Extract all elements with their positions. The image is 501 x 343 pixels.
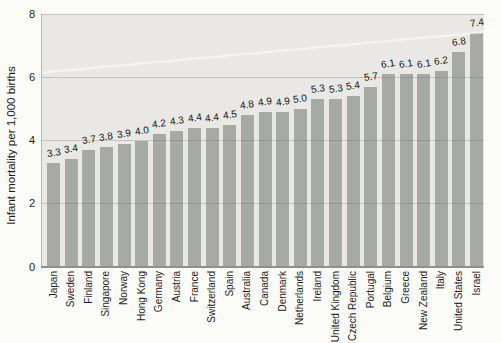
x-tick-label: Switzerland — [206, 271, 218, 343]
bar — [329, 99, 342, 267]
bar — [276, 112, 289, 267]
bar — [364, 87, 377, 267]
bar — [382, 74, 395, 267]
bar — [470, 33, 483, 267]
bar — [118, 144, 131, 267]
gridline — [41, 203, 484, 204]
x-tick-label: Spain — [224, 271, 236, 343]
x-tick-label: New Zealand — [418, 271, 430, 343]
y-tick-label: 6 — [12, 71, 35, 84]
bar — [206, 128, 219, 267]
x-tick-label: Germany — [153, 271, 165, 343]
x-tick-label: United Kingdom — [330, 271, 342, 343]
x-tick-label: Sweden — [65, 271, 77, 343]
x-tick-label: Czech Republic — [347, 271, 359, 343]
gridline — [41, 14, 484, 15]
x-tick-label: Singapore — [100, 271, 112, 343]
y-tick-label: 8 — [12, 8, 35, 21]
bar — [100, 147, 113, 267]
x-tick-label: Israel — [471, 271, 483, 343]
y-tick-label: 2 — [12, 197, 35, 210]
x-tick-label: Norway — [118, 271, 130, 343]
infant-mortality-bar-chart: Infant mortality per 1,000 births 02468 … — [0, 0, 501, 343]
gridline — [41, 77, 484, 78]
bar — [65, 159, 78, 267]
bar — [82, 150, 95, 267]
bar — [294, 109, 307, 267]
bar — [223, 125, 236, 267]
bar — [347, 96, 360, 267]
x-tick-label: France — [189, 271, 201, 343]
x-tick-label: Finland — [83, 271, 95, 343]
bar — [188, 128, 201, 267]
y-tick-label: 0 — [12, 261, 35, 274]
x-tick-label: Greece — [400, 271, 412, 343]
x-tick-label: Ireland — [312, 271, 324, 343]
bar — [47, 163, 60, 267]
x-tick-label: Australia — [241, 271, 253, 343]
bar — [435, 71, 448, 267]
bar — [170, 131, 183, 267]
x-tick-label: Japan — [48, 271, 60, 343]
x-tick-label: Denmark — [277, 271, 289, 343]
x-tick-label: Hong Kong — [136, 271, 148, 343]
y-axis-line — [41, 14, 42, 267]
x-tick-label: Italy — [435, 271, 447, 343]
x-tick-label: Netherlands — [294, 271, 306, 343]
x-tick-label: Canada — [259, 271, 271, 343]
bar — [311, 99, 324, 267]
x-tick-label: Belgium — [382, 271, 394, 343]
x-tick-label: Portugal — [365, 271, 377, 343]
bar — [417, 74, 430, 267]
bar — [400, 74, 413, 267]
bar — [241, 115, 254, 267]
x-tick-label: United States — [453, 271, 465, 343]
x-tick-label: Austria — [171, 271, 183, 343]
y-tick-label: 4 — [12, 134, 35, 147]
bar — [153, 134, 166, 267]
bar — [259, 112, 272, 267]
bar — [452, 52, 465, 267]
x-axis-line — [41, 266, 484, 268]
